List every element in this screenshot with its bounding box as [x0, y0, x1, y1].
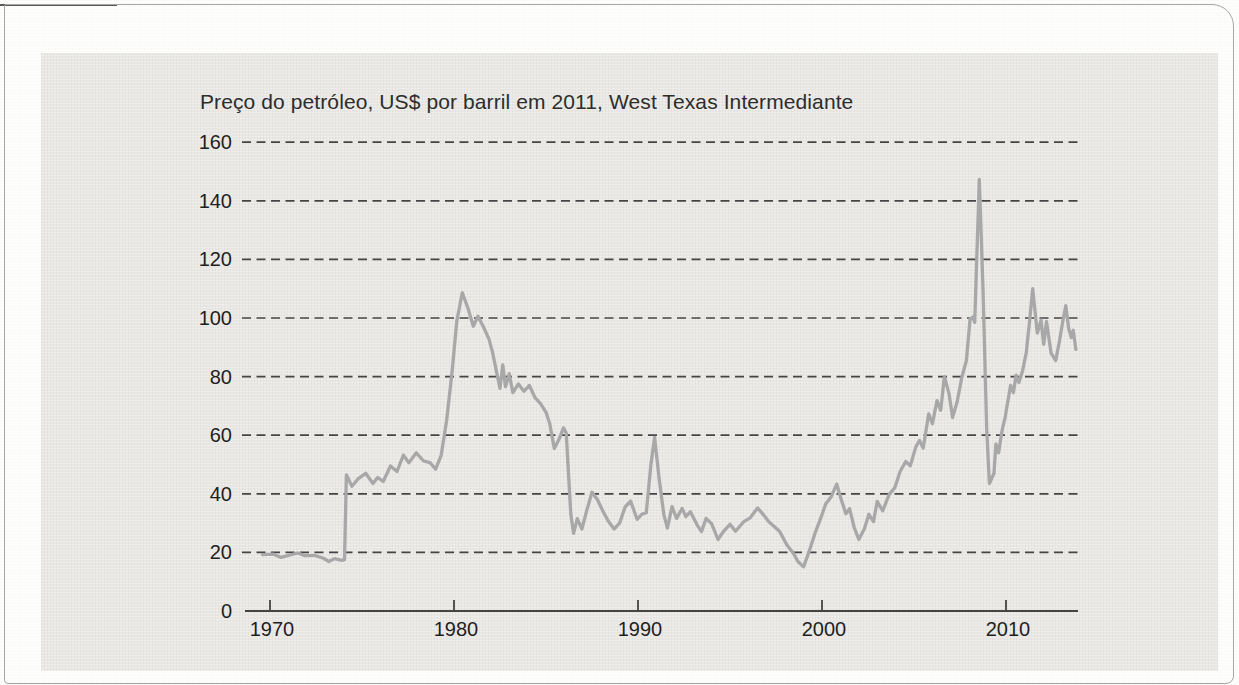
y-tick-label-160: 160	[162, 131, 232, 153]
y-tick-label-40: 40	[162, 483, 232, 505]
y-tick-label-60: 60	[162, 424, 232, 446]
x-tick-label-1970: 1970	[232, 618, 312, 640]
y-tick-label-0: 0	[162, 600, 232, 622]
x-tick-label-1980: 1980	[416, 618, 496, 640]
x-tick-label-2010: 2010	[968, 618, 1048, 640]
y-tick-label-100: 100	[162, 307, 232, 329]
y-tick-label-120: 120	[162, 248, 232, 270]
y-tick-label-20: 20	[162, 541, 232, 563]
price-series-line	[263, 179, 1076, 566]
oil-price-line-chart	[0, 0, 1239, 685]
x-tick-label-1990: 1990	[600, 618, 680, 640]
y-tick-label-140: 140	[162, 190, 232, 212]
y-tick-label-80: 80	[162, 366, 232, 388]
x-tick-label-2000: 2000	[784, 618, 864, 640]
